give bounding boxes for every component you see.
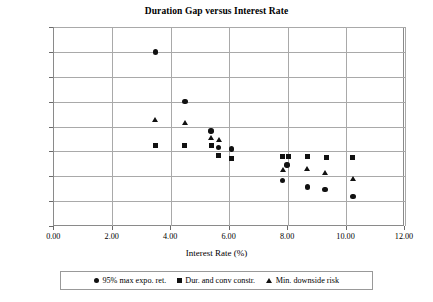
gridline-vertical	[112, 27, 113, 226]
legend-entry[interactable]: 95% max expo. ret.	[94, 276, 166, 285]
y-tick-mark	[49, 77, 53, 78]
x-tick-mark	[346, 226, 347, 230]
x-tick-mark	[53, 226, 54, 230]
data-point	[153, 49, 158, 54]
square-marker-icon	[177, 278, 182, 283]
data-point	[182, 99, 187, 104]
gridline-vertical	[171, 27, 172, 226]
data-point	[322, 187, 327, 192]
data-point	[305, 184, 310, 189]
gridline-vertical	[288, 27, 289, 226]
data-point	[208, 135, 214, 140]
data-point	[324, 155, 329, 160]
y-tick-mark	[49, 27, 53, 28]
x-axis-label: Interest Rate (%)	[0, 248, 433, 258]
x-tick-mark	[404, 226, 405, 230]
legend-entry[interactable]: Dur. and conv constr.	[177, 276, 255, 285]
data-point	[208, 128, 213, 133]
y-tick-mark	[49, 127, 53, 128]
x-tick-mark	[112, 226, 113, 230]
circle-marker-icon	[94, 278, 99, 283]
chart-title: Duration Gap versus Interest Rate	[0, 6, 433, 16]
legend-label: 95% max expo. ret.	[102, 276, 166, 285]
data-point	[280, 167, 286, 172]
data-point	[153, 143, 158, 148]
x-tick-label: 2.00	[92, 232, 132, 241]
data-point	[350, 155, 355, 160]
data-point	[322, 170, 328, 175]
legend-label: Dur. and conv constr.	[185, 276, 255, 285]
y-tick-mark	[49, 52, 53, 53]
y-tick-mark	[49, 151, 53, 152]
y-tick-mark	[49, 176, 53, 177]
x-tick-label: 6.00	[209, 232, 249, 241]
data-point	[286, 154, 291, 159]
data-point	[216, 137, 222, 142]
gridline-vertical	[229, 27, 230, 226]
legend-label: Min. downside risk	[276, 276, 339, 285]
x-tick-label: 12.00	[384, 232, 424, 241]
data-point	[182, 143, 187, 148]
x-tick-mark	[229, 226, 230, 230]
x-tick-mark	[170, 226, 171, 230]
triangle-marker-icon	[266, 278, 272, 283]
data-point	[305, 154, 310, 159]
data-point	[304, 166, 310, 171]
data-point	[216, 153, 221, 158]
y-tick-mark	[49, 102, 53, 103]
data-point	[229, 146, 234, 151]
data-point	[229, 156, 234, 161]
gridline-vertical	[346, 27, 347, 226]
chart-legend: 95% max expo. ret.Dur. and conv constr.M…	[60, 271, 373, 290]
legend-entry[interactable]: Min. downside risk	[266, 276, 339, 285]
y-tick-mark	[49, 201, 53, 202]
data-point	[209, 143, 214, 148]
chart-figure: Duration Gap versus Interest Rate Durati…	[0, 0, 433, 302]
data-point	[182, 120, 188, 125]
data-point	[152, 117, 158, 122]
x-tick-label: 10.00	[326, 232, 366, 241]
x-tick-label: 4.00	[150, 232, 190, 241]
x-tick-mark	[287, 226, 288, 230]
data-point	[280, 154, 285, 159]
x-tick-label: 0.00	[33, 232, 73, 241]
data-point	[350, 194, 355, 199]
gridline-vertical	[405, 27, 406, 226]
data-point	[350, 176, 356, 181]
x-tick-label: 8.00	[267, 232, 307, 241]
